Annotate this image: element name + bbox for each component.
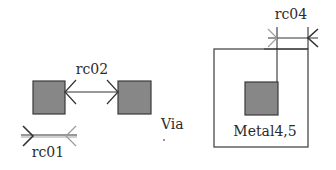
rc01-label: rc01 — [32, 144, 64, 160]
via-label: Via — [160, 116, 184, 132]
via-square-left — [33, 81, 65, 114]
metal-via-square — [245, 82, 278, 115]
rc04-dimension-arrow — [264, 27, 318, 82]
rc02-label: rc02 — [76, 61, 108, 77]
rc01-dimension-arrow — [21, 126, 77, 146]
via-square-right — [118, 81, 151, 114]
decorative-dot — [163, 139, 165, 141]
rc04-label: rc04 — [275, 6, 307, 22]
rc02-dimension-arrow — [65, 80, 118, 104]
via-rule-diagram: rc02 rc01 Via rc04 Metal4,5 — [0, 0, 336, 170]
metal-label: Metal4,5 — [233, 123, 296, 139]
